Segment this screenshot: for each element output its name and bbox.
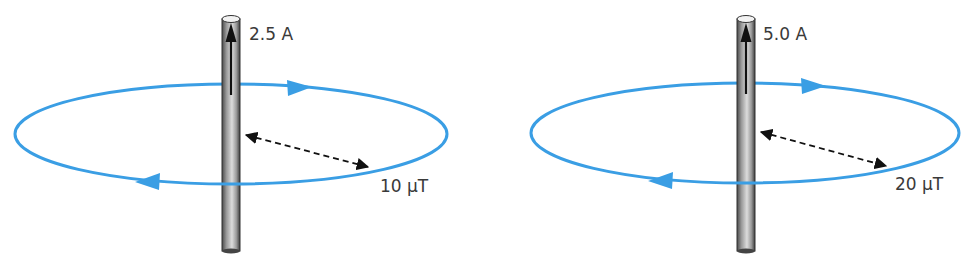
magnetic-field-diagram: 2.5 A 10 µT 5.0 A 20 µT	[0, 0, 978, 266]
field-direction-arrow-top-icon	[801, 78, 826, 94]
field-strength-label: 20 µT	[895, 174, 944, 194]
diagram-right: 5.0 A 20 µT	[531, 16, 959, 254]
wire-right	[737, 16, 755, 254]
field-strength-label: 10 µT	[380, 176, 429, 196]
field-direction-arrow-top-icon	[287, 80, 312, 96]
current-label: 2.5 A	[249, 24, 293, 44]
distance-arrow-icon	[761, 132, 886, 166]
field-direction-arrow-bottom-icon	[135, 173, 160, 190]
field-direction-arrow-bottom-icon	[648, 172, 673, 189]
distance-arrow-icon	[246, 135, 368, 167]
wire-left	[222, 16, 240, 254]
diagram-left: 2.5 A 10 µT	[15, 16, 447, 254]
current-label: 5.0 A	[763, 24, 807, 44]
